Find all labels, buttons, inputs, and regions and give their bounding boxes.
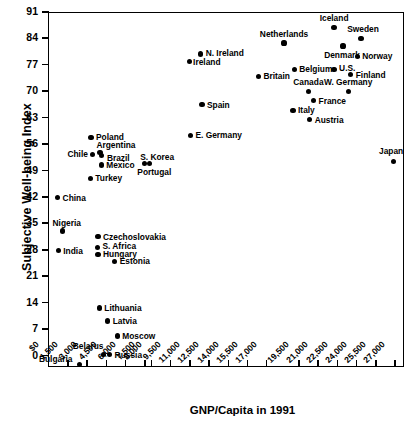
- y-tick-mark: [42, 170, 49, 172]
- x-tick-mark: [394, 360, 395, 367]
- data-point-label: China: [63, 194, 86, 202]
- data-point[interactable]: [198, 51, 203, 56]
- data-point[interactable]: [281, 40, 286, 45]
- data-point-label: France: [319, 97, 346, 105]
- data-point[interactable]: [292, 67, 297, 72]
- data-point[interactable]: [105, 318, 110, 323]
- y-tick-label: 35: [0, 216, 38, 228]
- data-point-label: W. Germany: [324, 78, 372, 86]
- x-tick-mark: [247, 360, 248, 367]
- data-point[interactable]: [97, 305, 102, 310]
- data-point[interactable]: [60, 228, 65, 233]
- data-point-label: Japan: [379, 147, 403, 155]
- data-point[interactable]: [290, 108, 295, 113]
- data-point-label: Lithuania: [104, 304, 141, 312]
- data-point[interactable]: [346, 89, 351, 94]
- data-point[interactable]: [355, 54, 360, 59]
- data-point[interactable]: [95, 245, 100, 250]
- data-point-label: Britain: [263, 72, 290, 80]
- data-point-label: Ireland: [193, 58, 220, 66]
- data-point-label: Russia: [115, 350, 142, 358]
- data-point-label: S. Korea: [140, 153, 174, 161]
- y-tick-mark: [42, 143, 49, 145]
- data-point-label: India: [63, 246, 83, 254]
- data-point[interactable]: [188, 133, 193, 138]
- data-point-label: Mexico: [106, 161, 134, 169]
- data-point[interactable]: [99, 162, 104, 167]
- data-point-label: Belarus: [73, 341, 104, 349]
- y-tick-mark: [42, 117, 49, 119]
- data-point[interactable]: [358, 36, 363, 41]
- y-tick-label: 14: [0, 296, 38, 308]
- y-tick-label: 7: [0, 322, 38, 334]
- y-tick-mark: [42, 90, 49, 92]
- data-point-label: Turkey: [95, 174, 122, 182]
- y-tick-label: 84: [0, 31, 38, 43]
- y-tick-label: 28: [0, 243, 38, 255]
- data-point[interactable]: [331, 25, 336, 30]
- data-point[interactable]: [88, 135, 93, 140]
- y-tick-mark: [42, 275, 49, 277]
- data-point[interactable]: [391, 159, 396, 164]
- data-point-label: Bulgaria: [39, 355, 73, 363]
- data-point[interactable]: [199, 102, 204, 107]
- y-tick-mark: [42, 64, 49, 66]
- y-tick-label: 42: [0, 190, 38, 202]
- data-point-label: Belgium: [299, 65, 332, 73]
- data-point-label: Iceland: [320, 14, 349, 22]
- y-tick-label: 63: [0, 111, 38, 123]
- data-point-label: Canada: [293, 78, 323, 86]
- data-point[interactable]: [306, 89, 311, 94]
- y-tick-label: 56: [0, 137, 38, 149]
- data-point-label: Estonia: [120, 257, 150, 265]
- data-point-label: Austria: [315, 115, 344, 123]
- data-point-label: Netherlands: [260, 30, 308, 38]
- data-point-label: Portugal: [137, 168, 171, 176]
- data-point-label: Nigeria: [53, 219, 81, 227]
- y-tick-mark: [42, 196, 49, 198]
- y-tick-mark: [42, 328, 49, 330]
- scatter-chart: Subjective Well-being Index GNP/Capita i…: [0, 0, 413, 426]
- data-point-label: Chile: [67, 150, 87, 158]
- data-point[interactable]: [77, 362, 82, 367]
- y-tick-label: 91: [0, 5, 38, 17]
- data-point[interactable]: [187, 59, 192, 64]
- y-tick-mark: [42, 249, 49, 251]
- data-point-label: Spain: [207, 100, 230, 108]
- data-point[interactable]: [115, 333, 120, 338]
- data-point-label: Moscow: [122, 332, 155, 340]
- y-tick-label: 49: [0, 164, 38, 176]
- data-point[interactable]: [340, 43, 345, 48]
- data-point[interactable]: [101, 352, 106, 357]
- x-tick-mark: [375, 360, 376, 367]
- data-point-label: U.S.: [339, 64, 355, 72]
- data-point[interactable]: [88, 176, 93, 181]
- data-point-label: Norway: [362, 52, 392, 60]
- data-point-label: Czechoslovakia: [103, 233, 166, 241]
- y-tick-mark: [42, 222, 49, 224]
- data-point[interactable]: [95, 252, 100, 257]
- y-tick-mark: [42, 37, 49, 39]
- x-axis-title: GNP/Capita in 1991: [0, 404, 413, 416]
- data-point-label: Argentina: [96, 141, 135, 149]
- y-tick-mark: [42, 302, 49, 304]
- data-point[interactable]: [256, 74, 261, 79]
- data-point[interactable]: [95, 234, 100, 239]
- y-tick-mark: [42, 11, 49, 13]
- data-point-label: Latvia: [113, 317, 137, 325]
- data-point-label: E. Germany: [195, 131, 242, 139]
- y-tick-label: 77: [0, 58, 38, 70]
- data-point-label: N. Ireland: [206, 49, 244, 57]
- y-tick-label: 70: [0, 84, 38, 96]
- data-point-label: Sweden: [347, 25, 379, 33]
- data-point-label: Italy: [298, 106, 315, 114]
- y-tick-label: 21: [0, 269, 38, 281]
